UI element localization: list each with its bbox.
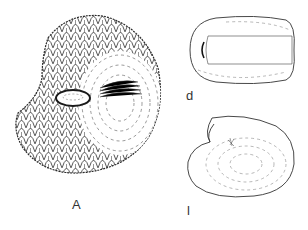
panel-l-illustration	[184, 114, 298, 200]
muscle-scar	[56, 90, 90, 106]
panel-d-illustration	[186, 12, 298, 88]
panel-a-illustration	[8, 8, 168, 178]
figure-caption-truncated: …	[22, 222, 302, 230]
panel-d-label: d	[186, 89, 193, 102]
panel-l-label: l	[187, 204, 190, 217]
panel-a-label: A	[72, 198, 81, 211]
